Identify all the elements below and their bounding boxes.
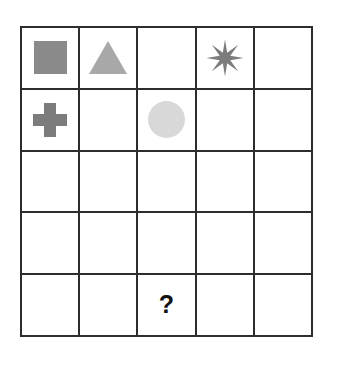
grid-cell-r1-c5[interactable]	[255, 28, 313, 90]
square-icon	[34, 41, 67, 74]
empty-cell-content	[80, 213, 136, 273]
empty-cell-content	[80, 90, 136, 150]
empty-cell-content	[255, 275, 311, 335]
grid-cell-r2-c4[interactable]	[197, 90, 255, 152]
triangle-icon	[89, 41, 127, 74]
grid-cell-r3-c4[interactable]	[197, 152, 255, 214]
empty-cell-content	[80, 275, 136, 335]
empty-cell-content	[22, 275, 78, 335]
grid-cell-r4-c5[interactable]	[255, 213, 313, 275]
empty-cell-content	[138, 213, 194, 273]
empty-cell-content	[255, 90, 311, 150]
empty-cell-content	[138, 152, 194, 212]
grid-cell-r3-c1[interactable]	[22, 152, 80, 214]
grid-cell-r1-c4[interactable]	[197, 28, 255, 90]
grid-cell-r4-c4[interactable]	[197, 213, 255, 275]
empty-cell-content	[22, 152, 78, 212]
empty-cell-content	[80, 152, 136, 212]
circle-icon	[148, 101, 185, 138]
empty-cell-content	[255, 28, 311, 88]
grid-cell-r5-c5[interactable]	[255, 275, 313, 337]
grid-cell-r4-c1[interactable]	[22, 213, 80, 275]
shape-grid-puzzle: ?	[0, 0, 339, 369]
empty-cell-content	[197, 275, 253, 335]
cross-icon	[33, 103, 67, 137]
puzzle-grid: ?	[20, 26, 313, 337]
grid-cell-r2-c3[interactable]	[138, 90, 196, 152]
grid-cell-r4-c3[interactable]	[138, 213, 196, 275]
question-mark: ?	[159, 292, 174, 317]
empty-cell-content	[255, 152, 311, 212]
empty-cell-content	[197, 213, 253, 273]
star-icon	[206, 39, 244, 77]
grid-cell-r5-c4[interactable]	[197, 275, 255, 337]
grid-cell-r1-c3[interactable]	[138, 28, 196, 90]
empty-cell-content	[197, 152, 253, 212]
grid-cell-r1-c1[interactable]	[22, 28, 80, 90]
grid-cell-r5-c2[interactable]	[80, 275, 138, 337]
empty-cell-content	[255, 213, 311, 273]
grid-cell-r5-c1[interactable]	[22, 275, 80, 337]
grid-cell-r3-c2[interactable]	[80, 152, 138, 214]
empty-cell-content	[138, 28, 194, 88]
empty-cell-content	[197, 90, 253, 150]
grid-cell-r2-c1[interactable]	[22, 90, 80, 152]
grid-cell-r5-c3[interactable]: ?	[138, 275, 196, 337]
grid-cell-r3-c5[interactable]	[255, 152, 313, 214]
grid-cell-r2-c5[interactable]	[255, 90, 313, 152]
grid-cell-r3-c3[interactable]	[138, 152, 196, 214]
grid-cell-r2-c2[interactable]	[80, 90, 138, 152]
grid-cell-r1-c2[interactable]	[80, 28, 138, 90]
empty-cell-content	[22, 213, 78, 273]
grid-cell-r4-c2[interactable]	[80, 213, 138, 275]
